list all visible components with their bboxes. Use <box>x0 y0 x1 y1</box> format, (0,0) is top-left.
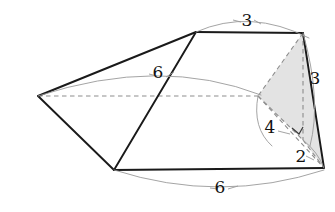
leader-short <box>306 156 314 160</box>
label-right-edge: 3 <box>310 68 321 88</box>
label-middle-slant: 6 <box>153 62 164 82</box>
edge-bottom-face <box>114 168 324 170</box>
edge-apex-to-topleft <box>38 32 196 96</box>
edge-top-face <box>196 32 303 33</box>
edge-topleft-to-bottomleft <box>114 32 196 170</box>
label-short-segment: 2 <box>296 146 307 166</box>
leader-inner <box>278 131 290 134</box>
diagram-canvas: 3 3 6 6 4 2 <box>0 0 335 212</box>
edge-apex-to-bottomleft <box>38 96 114 170</box>
geometry-figure: 3 3 6 6 4 2 <box>0 0 335 212</box>
dim-arc-top <box>196 21 309 38</box>
dim-arc-middle <box>38 76 261 96</box>
label-inner-slant: 4 <box>265 117 276 137</box>
label-bottom-edge: 6 <box>215 177 226 197</box>
label-top-edge: 3 <box>242 10 253 30</box>
